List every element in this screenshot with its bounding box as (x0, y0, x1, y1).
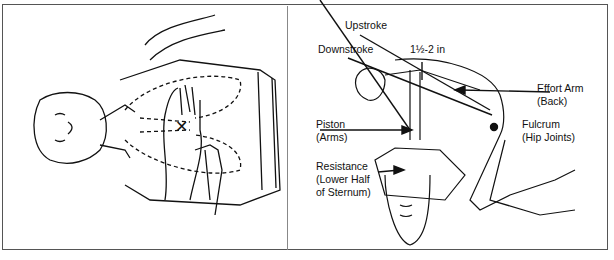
label-resistance-title: Resistance (316, 160, 371, 173)
label-resistance-sub1: (Lower Half (316, 173, 371, 186)
label-downstroke: Downstroke (318, 43, 373, 56)
label-effort-arm-sub: (Back) (537, 95, 584, 108)
label-resistance-sub2: of Sternum) (316, 186, 371, 199)
label-resistance: Resistance (Lower Half of Sternum) (316, 160, 371, 199)
label-upstroke: Upstroke (345, 19, 387, 32)
label-piston: Piston (Arms) (316, 118, 348, 144)
label-effort-arm: Effort Arm (Back) (537, 82, 584, 108)
label-piston-sub: (Arms) (316, 131, 348, 144)
label-fulcrum-title: Fulcrum (522, 118, 575, 131)
label-fulcrum: Fulcrum (Hip Joints) (522, 118, 575, 144)
label-fulcrum-sub: (Hip Joints) (522, 131, 575, 144)
label-compression-depth: 1½-2 in (410, 43, 445, 56)
label-piston-title: Piston (316, 118, 348, 131)
label-effort-arm-title: Effort Arm (537, 82, 584, 95)
